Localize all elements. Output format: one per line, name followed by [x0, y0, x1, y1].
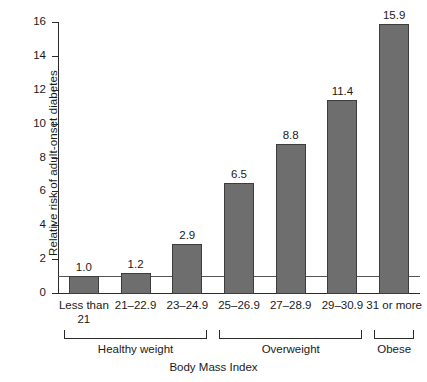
bar-value-label: 6.5: [212, 169, 266, 181]
y-axis-line: [58, 22, 59, 294]
bar-value-label: 2.9: [160, 230, 214, 242]
y-axis-tick-label: 8: [6, 152, 46, 164]
group-label: Obese: [334, 344, 427, 356]
y-axis-tick: [52, 56, 58, 57]
bar: [224, 183, 254, 294]
y-axis-tick-label: 12: [6, 84, 46, 96]
bar: [276, 144, 306, 294]
y-axis-tick-label: 14: [6, 50, 46, 62]
x-axis-category-label: 31 or more: [363, 299, 425, 313]
group-bracket: [219, 330, 362, 339]
y-axis-tick-label: 0: [6, 287, 46, 299]
bar-value-label: 8.8: [264, 130, 318, 142]
y-axis-tick: [52, 158, 58, 159]
group-bracket: [64, 330, 207, 339]
x-axis-title: Body Mass Index: [0, 361, 427, 373]
y-axis-tick-label: 6: [6, 185, 46, 197]
y-axis-tick-label: 2: [6, 253, 46, 265]
bar: [172, 244, 202, 294]
bar-value-label: 1.0: [57, 262, 111, 274]
y-axis-tick-label: 4: [6, 219, 46, 231]
bar-chart-figure: Relative risk of adult-onset diabetes 02…: [0, 0, 427, 382]
bar: [121, 273, 151, 294]
y-axis-tick: [52, 90, 58, 91]
bar: [379, 24, 409, 294]
bar: [69, 276, 99, 294]
y-axis-tick: [52, 124, 58, 125]
y-axis-tick: [52, 191, 58, 192]
group-bracket: [374, 330, 414, 339]
y-axis-tick: [52, 225, 58, 226]
bar-value-label: 11.4: [315, 86, 369, 98]
y-axis-tick-label: 16: [6, 16, 46, 28]
bar-value-label: 1.2: [109, 259, 163, 271]
bar: [327, 100, 357, 294]
y-axis-tick: [52, 22, 58, 23]
bar-value-label: 15.9: [367, 10, 421, 22]
y-axis-tick-label: 10: [6, 118, 46, 130]
y-axis-tick: [52, 293, 58, 294]
y-axis-tick: [52, 259, 58, 260]
